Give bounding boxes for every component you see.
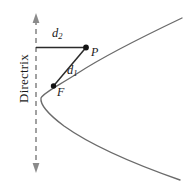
- parabola-diagram: d2 d1 P F Directrix: [0, 0, 183, 184]
- parabola-curve: [41, 18, 182, 180]
- label-d1: d1: [67, 64, 78, 78]
- label-d2: d2: [52, 27, 63, 41]
- directrix-line-group: [33, 13, 40, 173]
- directrix-arrowhead-bottom: [33, 163, 40, 173]
- label-point-f: F: [57, 86, 64, 98]
- label-point-p: P: [91, 46, 98, 58]
- point-f-marker: [51, 83, 56, 88]
- point-p-marker: [83, 45, 89, 51]
- directrix-arrowhead-top: [33, 13, 40, 23]
- label-directrix: Directrix: [17, 44, 30, 114]
